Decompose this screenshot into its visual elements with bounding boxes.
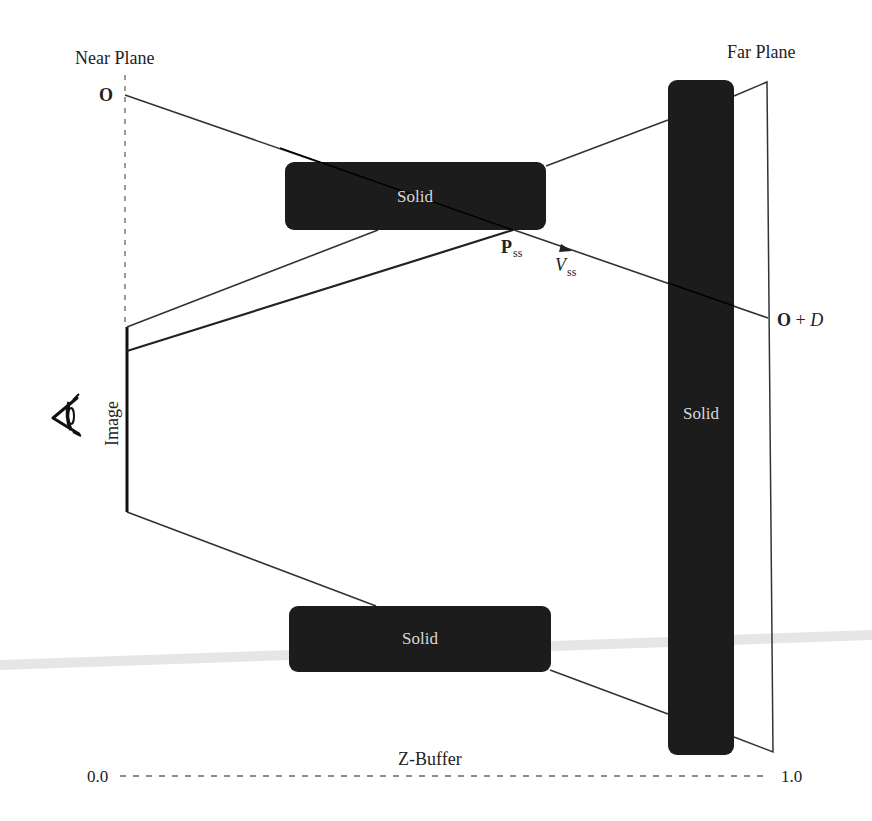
solid-top-label: Solid: [397, 187, 433, 206]
frustum-top-line-far: [546, 120, 668, 166]
endpoint-label: O + D: [777, 310, 823, 330]
pss-sub: ss: [513, 246, 523, 260]
pss-label: Pss: [501, 237, 523, 260]
image-to-pss-ray: [127, 230, 513, 351]
solid-tall-label: Solid: [683, 404, 719, 423]
zbuffer-min-label: 0.0: [87, 767, 108, 786]
frustum-bottom-line: [127, 512, 376, 606]
origin-label: O: [99, 85, 113, 105]
vss-sub: ss: [567, 265, 577, 279]
vss-label: Vss: [555, 255, 577, 279]
endpoint-plus: +: [791, 310, 810, 330]
image-label: Image: [102, 401, 122, 446]
eye-icon: [53, 394, 81, 436]
diagram-canvas: Near Plane Far Plane O O + D Pss Vss Ima…: [0, 0, 872, 821]
solid-bottom-label: Solid: [402, 629, 438, 648]
endpoint-o: O: [777, 310, 791, 330]
frustum-bottom-line-far: [550, 670, 668, 714]
zbuffer-label: Z-Buffer: [398, 749, 462, 769]
vss-arrowhead: [559, 244, 572, 252]
endpoint-d: D: [809, 310, 823, 330]
near-plane-label: Near Plane: [75, 48, 154, 68]
far-plane-label: Far Plane: [727, 42, 795, 62]
pss-main: P: [501, 237, 512, 257]
zbuffer-max-label: 1.0: [781, 767, 802, 786]
far-plane-edge: [734, 82, 773, 752]
